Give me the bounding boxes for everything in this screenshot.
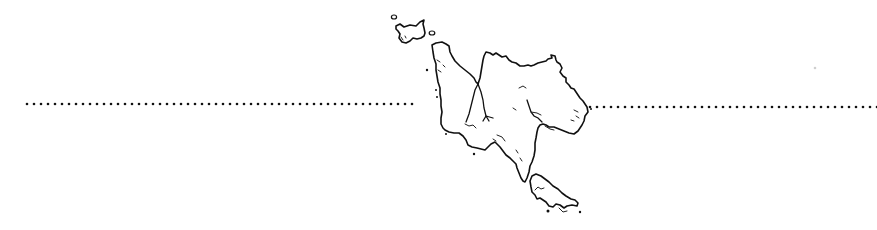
dot bbox=[334, 103, 337, 106]
dot bbox=[68, 103, 71, 106]
dotted-line-left bbox=[26, 103, 414, 106]
dot bbox=[589, 106, 592, 109]
dot bbox=[645, 106, 648, 109]
dot bbox=[404, 103, 407, 106]
dot bbox=[278, 103, 281, 106]
dot bbox=[376, 103, 379, 106]
dot bbox=[701, 106, 704, 109]
dot bbox=[54, 103, 57, 106]
dot bbox=[827, 106, 830, 109]
dot bbox=[659, 106, 662, 109]
dot bbox=[729, 106, 732, 109]
dot bbox=[194, 103, 197, 106]
dot bbox=[173, 103, 176, 106]
dot bbox=[26, 103, 29, 106]
dot bbox=[799, 106, 802, 109]
dot bbox=[110, 103, 113, 106]
dot bbox=[257, 103, 260, 106]
dot bbox=[243, 103, 246, 106]
dot bbox=[390, 103, 393, 106]
dot bbox=[355, 103, 358, 106]
dot bbox=[778, 106, 781, 109]
dot bbox=[820, 106, 823, 109]
dot bbox=[152, 103, 155, 106]
dot bbox=[131, 103, 134, 106]
dot bbox=[264, 103, 267, 106]
dot bbox=[215, 103, 218, 106]
central-river bbox=[465, 84, 493, 128]
dot bbox=[285, 103, 288, 106]
southeast-island bbox=[530, 174, 581, 213]
dot bbox=[138, 103, 141, 106]
dot bbox=[124, 103, 127, 106]
dot bbox=[673, 106, 676, 109]
eastern-river bbox=[513, 86, 542, 122]
dot bbox=[103, 103, 106, 106]
dot bbox=[771, 106, 774, 109]
dot bbox=[862, 106, 865, 109]
dot bbox=[75, 103, 78, 106]
dot bbox=[596, 106, 599, 109]
dot bbox=[383, 103, 386, 106]
dot bbox=[708, 106, 711, 109]
dot bbox=[180, 103, 183, 106]
dot bbox=[362, 103, 365, 106]
dot bbox=[299, 103, 302, 106]
dot bbox=[743, 106, 746, 109]
dot bbox=[229, 103, 232, 106]
dot bbox=[306, 103, 309, 106]
dot bbox=[313, 103, 316, 106]
dot bbox=[869, 106, 872, 109]
dot bbox=[341, 103, 344, 106]
dot bbox=[834, 106, 837, 109]
dot bbox=[411, 103, 414, 106]
dot bbox=[715, 106, 718, 109]
dot bbox=[201, 103, 204, 106]
dot bbox=[603, 106, 606, 109]
dot bbox=[841, 106, 844, 109]
dot bbox=[624, 106, 627, 109]
dot bbox=[187, 103, 190, 106]
dot bbox=[792, 106, 795, 109]
dot bbox=[327, 103, 330, 106]
dot bbox=[764, 106, 767, 109]
dot bbox=[117, 103, 120, 106]
dot bbox=[610, 106, 613, 109]
dot bbox=[222, 103, 225, 106]
dot bbox=[855, 106, 858, 109]
dot bbox=[82, 103, 85, 106]
dot bbox=[757, 106, 760, 109]
dot bbox=[208, 103, 211, 106]
dot bbox=[292, 103, 295, 106]
map-canvas bbox=[0, 0, 877, 230]
dot bbox=[159, 103, 162, 106]
dot bbox=[638, 106, 641, 109]
dot bbox=[61, 103, 64, 106]
northwest-islet bbox=[391, 15, 434, 43]
dot bbox=[271, 103, 274, 106]
dot bbox=[736, 106, 739, 109]
dot bbox=[320, 103, 323, 106]
dot bbox=[694, 106, 697, 109]
dot bbox=[96, 103, 99, 106]
dot bbox=[750, 106, 753, 109]
dot bbox=[722, 106, 725, 109]
dot bbox=[33, 103, 36, 106]
dot bbox=[631, 106, 634, 109]
dot bbox=[785, 106, 788, 109]
dot bbox=[236, 103, 239, 106]
dot bbox=[145, 103, 148, 106]
dot bbox=[250, 103, 253, 106]
dot bbox=[40, 103, 43, 106]
dot bbox=[617, 106, 620, 109]
dotted-line-right bbox=[589, 106, 877, 109]
dot bbox=[369, 103, 372, 106]
dot bbox=[652, 106, 655, 109]
faint-speck bbox=[814, 67, 817, 70]
dot bbox=[47, 103, 50, 106]
dot bbox=[806, 106, 809, 109]
dot bbox=[687, 106, 690, 109]
dot bbox=[397, 103, 400, 106]
dot bbox=[348, 103, 351, 106]
dot bbox=[813, 106, 816, 109]
